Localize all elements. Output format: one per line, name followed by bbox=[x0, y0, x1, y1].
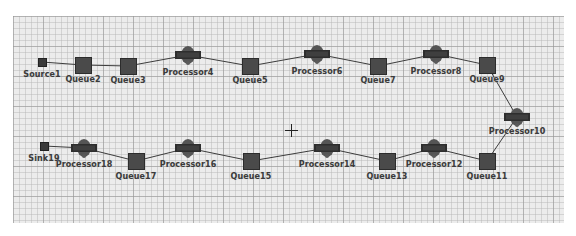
processor-icon[interactable] bbox=[419, 138, 449, 158]
node-label: Processor6 bbox=[291, 67, 342, 76]
node-label: Queue7 bbox=[360, 76, 395, 85]
node-label: Processor16 bbox=[160, 160, 217, 169]
sink-icon[interactable] bbox=[40, 142, 49, 151]
node-label: Queue15 bbox=[231, 172, 272, 181]
node-label: Queue17 bbox=[116, 172, 157, 181]
processor-icon[interactable] bbox=[69, 138, 99, 158]
node-label: Queue11 bbox=[467, 172, 508, 181]
node-label: Processor4 bbox=[162, 68, 213, 77]
queue-icon[interactable] bbox=[370, 58, 387, 75]
node-label: Processor8 bbox=[410, 67, 461, 76]
node-label: Queue3 bbox=[110, 76, 145, 85]
node-label: Sink19 bbox=[28, 154, 59, 163]
node-label: Source1 bbox=[23, 70, 60, 79]
crosshair-cursor-icon bbox=[285, 124, 298, 137]
queue-icon[interactable] bbox=[242, 58, 259, 75]
queue-icon[interactable] bbox=[479, 153, 496, 170]
queue-icon[interactable] bbox=[379, 153, 396, 170]
queue-icon[interactable] bbox=[75, 57, 92, 74]
node-label: Processor12 bbox=[406, 160, 463, 169]
node-label: Processor10 bbox=[489, 127, 546, 136]
queue-icon[interactable] bbox=[120, 58, 137, 75]
processor-icon[interactable] bbox=[502, 107, 532, 127]
processor-icon[interactable] bbox=[173, 45, 203, 65]
queue-icon[interactable] bbox=[128, 153, 145, 170]
node-label: Processor18 bbox=[56, 160, 113, 169]
connection-layer bbox=[0, 0, 576, 236]
processor-icon[interactable] bbox=[302, 44, 332, 64]
processor-icon[interactable] bbox=[173, 138, 203, 158]
queue-icon[interactable] bbox=[243, 153, 260, 170]
node-label: Processor14 bbox=[299, 160, 356, 169]
node-label: Queue5 bbox=[232, 76, 267, 85]
processor-icon[interactable] bbox=[312, 138, 342, 158]
node-label: Queue9 bbox=[469, 75, 504, 84]
queue-icon[interactable] bbox=[479, 57, 496, 74]
node-label: Queue13 bbox=[367, 172, 408, 181]
node-label: Queue2 bbox=[65, 75, 100, 84]
processor-icon[interactable] bbox=[421, 44, 451, 64]
source-icon[interactable] bbox=[38, 58, 47, 67]
